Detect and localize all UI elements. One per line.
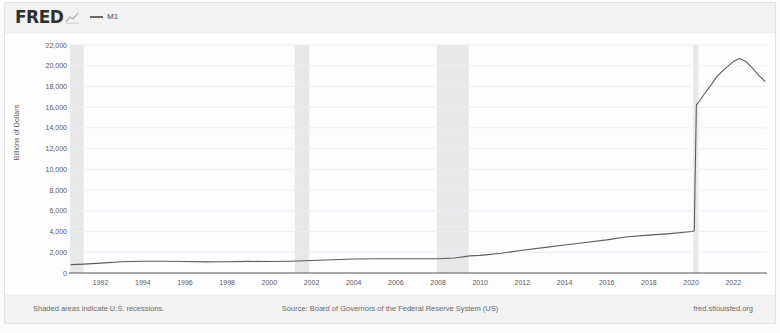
x-tick-label: 2002 xyxy=(304,279,320,286)
x-tick-label: 1992 xyxy=(93,279,109,286)
x-tick-label: 2018 xyxy=(641,279,657,286)
line-swatch-icon xyxy=(90,16,103,18)
fred-chart-widget: FRED M1 Billions of Dollars 02,0004,0006… xyxy=(0,0,780,333)
x-tick-label: 2014 xyxy=(557,279,573,286)
x-tick-label: 1994 xyxy=(135,279,151,286)
chart-legend: M1 xyxy=(90,12,119,21)
legend-item-m1[interactable]: M1 xyxy=(107,12,119,21)
grid-lines xyxy=(69,45,767,252)
fred-url[interactable]: fred.stlouisfed.org xyxy=(693,304,753,313)
x-tick-label: 2012 xyxy=(515,279,531,286)
x-axis-ticks: 1992199419961998200020022004200620082010… xyxy=(5,276,775,292)
fred-logo[interactable]: FRED xyxy=(15,8,63,27)
x-tick-label: 2004 xyxy=(346,279,362,286)
x-tick-label: 2016 xyxy=(599,279,615,286)
series-m1 xyxy=(71,58,765,264)
x-tick-label: 1998 xyxy=(219,279,235,286)
recession-note: Shaded areas indicate U.S. recessions. xyxy=(33,304,164,313)
x-tick-label: 2006 xyxy=(388,279,404,286)
chart-canvas xyxy=(5,33,775,295)
plot-area: Billions of Dollars 02,0004,0006,0008,00… xyxy=(5,33,775,295)
x-tick-label: 1996 xyxy=(177,279,193,286)
recession-bands xyxy=(70,45,698,273)
chart-card: FRED M1 Billions of Dollars 02,0004,0006… xyxy=(4,2,776,324)
x-tick-label: 2020 xyxy=(683,279,699,286)
chart-footer: Shaded areas indicate U.S. recessions. S… xyxy=(5,295,775,323)
x-tick-label: 2022 xyxy=(725,279,741,286)
fred-chart-mark-icon xyxy=(65,12,80,24)
x-tick-label: 2000 xyxy=(262,279,278,286)
source-note: Source: Board of Governors of the Federa… xyxy=(282,304,498,313)
x-tick-label: 2010 xyxy=(472,279,488,286)
chart-header: FRED M1 xyxy=(5,3,775,33)
x-tick-label: 2008 xyxy=(430,279,446,286)
